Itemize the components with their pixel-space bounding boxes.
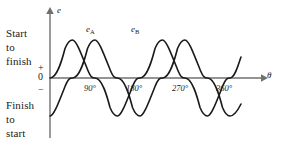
y-axis-arrowhead [46,7,54,14]
annotation-finish-line-3: start [6,128,25,139]
negative-sign-label: − [38,85,44,95]
x-tick-label-180: 180° [126,84,142,93]
x-tick-label-270: 270° [172,84,188,93]
waveform-figure: e θ + 0 − Start to finish Finish to star… [0,0,281,148]
x-axis-label: θ [267,71,271,80]
curve-label-e-b: eB [131,25,139,34]
zero-label: 0 [38,72,43,82]
annotation-start-line-2: to [6,42,15,53]
annotation-start-line-3: finish [6,56,32,67]
curve-label-e-a: eA [86,25,95,34]
y-axis-label: e [57,6,61,15]
annotation-finish-line-2: to [6,114,15,125]
x-tick-label-360: 360° [216,84,232,93]
annotation-start-line-1: Start [6,28,27,39]
curve-label-e-a-sub: A [90,28,95,35]
annotation-finish-line-1: Finish [6,100,34,111]
curve-label-e-b-sub: B [135,28,139,35]
x-tick-label-90: 90° [84,84,96,93]
